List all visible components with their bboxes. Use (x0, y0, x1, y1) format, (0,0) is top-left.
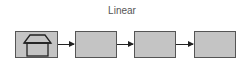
diagram-title: Linear (0, 5, 244, 16)
node-4 (194, 31, 236, 58)
arrow-1-2 (58, 44, 74, 45)
arrow-3-4 (176, 44, 193, 45)
node-2 (75, 31, 117, 58)
node-3 (134, 31, 176, 58)
house-icon (16, 32, 59, 59)
node-1 (15, 31, 58, 58)
arrow-2-3 (117, 44, 133, 45)
